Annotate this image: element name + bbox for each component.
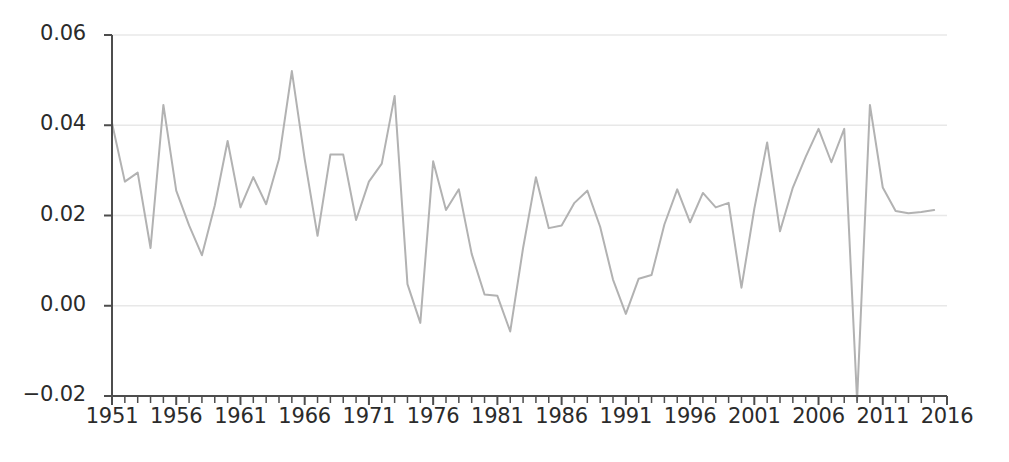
x-axis-tick-label: 2016	[902, 404, 992, 428]
data-series-line	[112, 71, 934, 400]
y-axis-tick-label: −0.02	[0, 382, 86, 406]
y-axis-tick-label: 0.04	[0, 111, 86, 135]
y-axis-tick-label: 0.00	[0, 292, 86, 316]
chart-plot-area	[0, 0, 1009, 462]
y-axis-tick-label: 0.02	[0, 202, 86, 226]
y-axis-tick-label: 0.06	[0, 21, 86, 45]
line-chart: −0.020.000.020.040.06 195119561961196619…	[0, 0, 1009, 462]
